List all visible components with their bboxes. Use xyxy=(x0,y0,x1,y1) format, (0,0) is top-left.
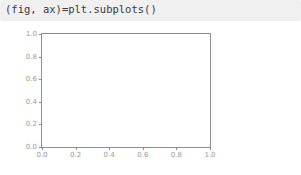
x-axis-tick-label: 1.0 xyxy=(204,152,215,159)
x-axis-tick-label: 0.2 xyxy=(70,152,81,159)
x-axis-tick xyxy=(210,147,211,150)
y-axis-tick-label: 1.0 xyxy=(26,31,37,38)
y-axis-tick-label: 0.8 xyxy=(26,53,37,60)
y-axis-tick-label: 0.6 xyxy=(26,76,37,83)
y-axis-tick-label: 0.0 xyxy=(26,144,37,151)
x-axis-tick-group: 0.00.20.40.60.81.0 xyxy=(42,34,210,147)
x-axis-tick-label: 0.6 xyxy=(137,152,148,159)
x-axis-tick-label: 0.8 xyxy=(171,152,182,159)
y-axis-tick-label: 0.4 xyxy=(26,98,37,105)
y-axis-tick-label: 0.2 xyxy=(26,121,37,128)
x-axis-tick xyxy=(143,147,144,150)
code-cell-source: (fig, ax)=plt.subplots() xyxy=(5,3,157,16)
code-cell-banner: (fig, ax)=plt.subplots() xyxy=(0,0,301,21)
x-axis-tick xyxy=(109,147,110,150)
x-axis-tick-label: 0.4 xyxy=(104,152,115,159)
plot-axes-frame: 0.00.20.40.60.81.0 0.00.20.40.60.81.0 xyxy=(41,33,211,148)
x-axis-tick-label: 0.0 xyxy=(36,152,47,159)
x-axis-tick xyxy=(42,147,43,150)
x-axis-tick xyxy=(76,147,77,150)
matplotlib-figure: 0.00.20.40.60.81.0 0.00.20.40.60.81.0 xyxy=(0,21,301,175)
x-axis-tick xyxy=(176,147,177,150)
